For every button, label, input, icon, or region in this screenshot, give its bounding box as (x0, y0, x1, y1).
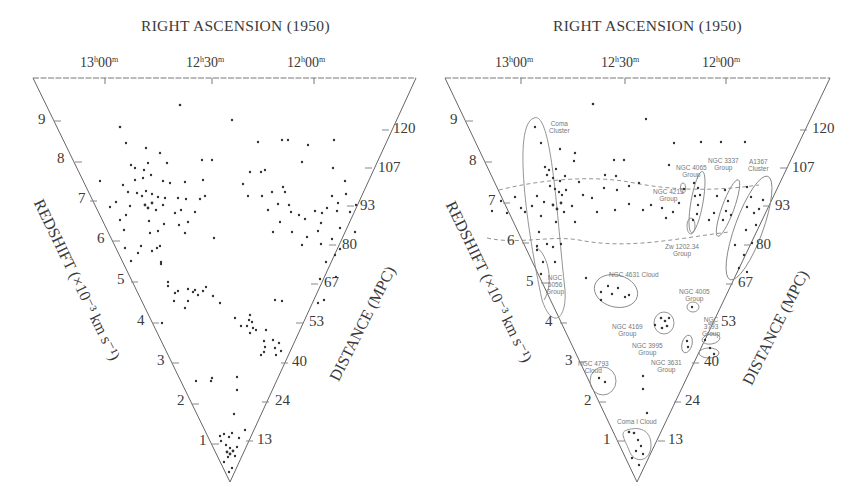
distance-tick-label: 107 (792, 159, 815, 176)
redshift-axis-line (33, 78, 230, 482)
annotation-coma-cluster: ComaCluster (549, 120, 570, 134)
annotation-ngc4213-group: NGC 4213Group (653, 188, 684, 202)
ra-tick-label: 12h00m (702, 55, 740, 71)
distance-tick-label: 120 (812, 120, 835, 137)
distance-tick-label: 67 (324, 274, 339, 291)
redshift-tick-label: 8 (57, 150, 65, 167)
distance-tick-label: 40 (292, 353, 307, 370)
distance-tick-label: 80 (342, 236, 357, 253)
annotation-ngc4793-cloud: NGC 4793Cloud (578, 360, 609, 374)
distance-tick-label: 53 (309, 313, 324, 330)
redshift-tick-label: 3 (157, 352, 165, 369)
annotation-ngc5056-group: NGC5056Group (546, 274, 564, 295)
distance-tick-label: 80 (756, 236, 771, 253)
redshift-tick-label: 2 (177, 392, 185, 409)
ra-tick-label: 12h00m (287, 55, 325, 71)
distance-tick-label: 93 (775, 197, 790, 214)
annotation-ngc4005-group: NGC 4005Group (679, 288, 710, 302)
ra-tick-label: 12h30m (601, 55, 639, 71)
redshift-tick-label: 4 (545, 313, 553, 330)
distance-tick-label: 93 (360, 197, 375, 214)
redshift-tick-label: 6 (97, 230, 105, 247)
distance-tick-label: 13 (257, 431, 272, 448)
annotation-ngc4065-group: NGC 4065Group (676, 164, 707, 178)
annotation-coma-i-cloud: Coma I Cloud (617, 418, 657, 425)
galaxy-points-left (99, 104, 357, 474)
distance-tick-label: 40 (704, 353, 719, 370)
distance-tick-label: 24 (685, 392, 700, 409)
ra-tick-label: 13h00m (495, 55, 533, 71)
redshift-tick-label: 9 (450, 111, 458, 128)
redshift-tick-label: 2 (584, 392, 592, 409)
distance-tick-label: 120 (393, 120, 416, 137)
redshift-tick-label: 6 (507, 232, 515, 249)
ra-tick-label: 13h00m (80, 55, 118, 71)
distance-tick-label: 53 (721, 313, 736, 330)
redshift-tick-label: 7 (488, 192, 496, 209)
redshift-tick-label: 5 (117, 271, 125, 288)
redshift-tick-label: 9 (38, 111, 46, 128)
annotation-ngc3631-group: NGC 3631Group (651, 359, 682, 373)
distance-tick-label: 67 (738, 274, 753, 291)
redshift-tick-label: 8 (469, 152, 477, 169)
annotation-ngc3337-group: NGC 3337Group (708, 157, 739, 171)
redshift-tick-label: 7 (78, 190, 86, 207)
redshift-tick-label: 3 (565, 352, 573, 369)
distance-tick-label: 13 (668, 431, 683, 448)
redshift-tick-label: 1 (603, 431, 611, 448)
redshift-tick-label: 4 (137, 312, 145, 329)
annotation-a1367-cluster: A1367Cluster (748, 158, 769, 172)
annotation-zw-group: Zw 1202.34Group (665, 243, 699, 257)
chart-title: RIGHT ASCENSION (1950) (553, 17, 742, 35)
redshift-tick-label: 5 (526, 273, 534, 290)
distance-tick-label: 24 (275, 392, 290, 409)
wedge-panel-left: RIGHT ASCENSION (1950) 13h00m 12h30m 12h… (0, 0, 430, 499)
chart-title: RIGHT ASCENSION (1950) (141, 17, 330, 35)
wedge-panel-right: RIGHT ASCENSION (1950) 13h00m 12h30m 12h… (429, 0, 859, 499)
distance-tick-label: 107 (378, 159, 401, 176)
annotation-ngc3793-group: NGC3793Group (702, 316, 720, 337)
redshift-tick-label: 1 (199, 432, 207, 449)
annotation-ngc4631-cloud: NGC 4631 Cloud (609, 271, 659, 278)
annotation-ngc4169-group: NGC 4169Group (612, 323, 643, 337)
ra-tick-label: 12h30m (186, 55, 224, 71)
annotation-ngc3995-group: NGC 3995Group (632, 342, 663, 356)
